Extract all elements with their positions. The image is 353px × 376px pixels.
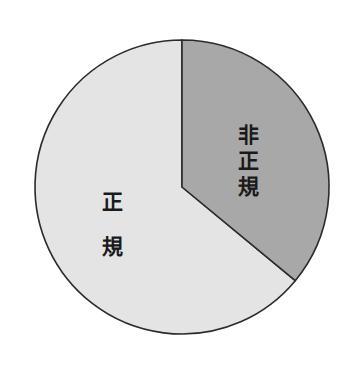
pie-label-nonregular-char-3: 規 <box>238 175 259 199</box>
pie-label-nonregular-char-1: 非 <box>238 123 259 147</box>
pie-label-nonregular: 非 正 規 <box>238 123 259 199</box>
pie-label-regular-char-1: 正 <box>102 190 123 214</box>
pie-label-nonregular-char-2: 正 <box>238 149 259 173</box>
pie-label-regular-char-2: 規 <box>102 235 123 259</box>
pie-chart-canvas: 非 正 規 正 規 <box>0 0 353 376</box>
pie-chart-figure: 非 正 規 正 規 <box>0 0 353 376</box>
